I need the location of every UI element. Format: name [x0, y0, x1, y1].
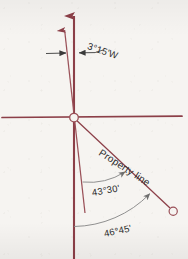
- horizontal-reference-line: [2, 116, 182, 117]
- angle-arc-lower: [74, 194, 150, 227]
- property-line-endpoint-marker: [169, 207, 177, 215]
- declination-diagram: 3°15'W Property line 43°30' 46°45': [0, 0, 188, 259]
- origin-marker: [70, 113, 79, 122]
- diagram-canvas: [0, 0, 188, 259]
- angle-arc-upper: [83, 172, 125, 182]
- declination-dimension-arrow-left: [46, 53, 66, 54]
